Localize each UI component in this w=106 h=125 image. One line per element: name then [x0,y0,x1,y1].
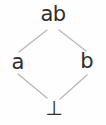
lattice-diagram: ab a b ⊥ [0,0,106,125]
node-label-b: b [80,51,93,72]
edge-bottom-to-b [60,75,87,99]
node-label-a: a [12,52,25,73]
node-label-bottom: ⊥ [45,98,62,118]
edge-bottom-to-a [18,74,47,98]
node-label-top: ab [40,4,65,25]
